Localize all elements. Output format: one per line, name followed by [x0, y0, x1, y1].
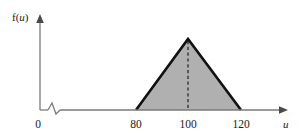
triangular-distribution-figure: f(u) u 0 80 100 120 [0, 0, 299, 133]
x-tick-label-80: 80 [130, 118, 142, 130]
x-tick-label-120: 120 [232, 118, 250, 130]
figure-canvas: f(u) u 0 80 100 120 [0, 0, 299, 133]
figure-background [0, 0, 299, 133]
x-axis-label: u [283, 118, 289, 130]
y-axis-label: f(u) [12, 11, 29, 24]
x-tick-label-0: 0 [35, 118, 41, 130]
y-axis-label-suffix: ) [25, 11, 29, 24]
x-tick-label-100: 100 [179, 118, 197, 130]
